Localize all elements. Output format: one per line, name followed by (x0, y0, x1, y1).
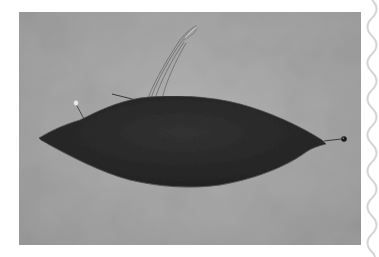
photograph (19, 12, 361, 245)
photo-scene (0, 0, 379, 257)
